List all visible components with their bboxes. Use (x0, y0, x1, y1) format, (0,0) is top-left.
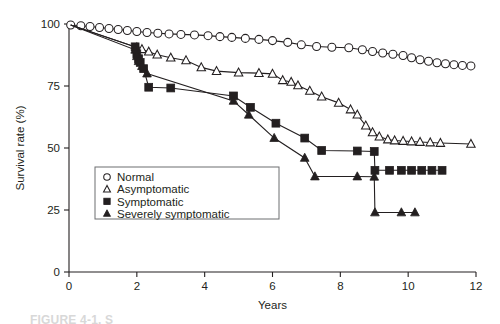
survival-chart: 0246810120255075100 NormalAsymptomaticSy… (0, 0, 500, 324)
open-circle-marker (255, 35, 263, 43)
open-circle-marker (450, 61, 458, 69)
open-circle-marker (123, 26, 131, 34)
y-tick-label: 0 (54, 266, 60, 278)
open-circle-marker (190, 31, 198, 39)
open-circle-marker (105, 24, 113, 32)
filled-triangle-marker (353, 172, 362, 180)
x-tick-label: 2 (134, 280, 140, 292)
y-tick-label: 100 (41, 18, 60, 30)
open-circle-marker (204, 32, 212, 40)
filled-square-marker (318, 147, 326, 155)
chart-legend: NormalAsymptomaticSymptomaticSeverely sy… (95, 167, 279, 220)
filled-triangle-marker (371, 208, 380, 216)
x-tick-label: 10 (402, 280, 415, 292)
filled-square-marker (397, 166, 405, 174)
open-circle-marker (458, 61, 466, 69)
open-circle-marker (216, 33, 224, 41)
open-circle-marker (284, 38, 292, 46)
open-circle-marker (313, 43, 321, 51)
open-circle-marker (441, 60, 449, 68)
filled-triangle-marker (411, 208, 420, 216)
open-circle-marker (241, 34, 249, 42)
open-circle-marker (328, 43, 336, 51)
filled-square-marker (428, 166, 436, 174)
open-circle-marker (177, 30, 185, 38)
legend-label-asymptomatic: Asymptomatic (117, 183, 189, 195)
filled-square-marker (247, 103, 255, 111)
series-normal (67, 21, 475, 70)
open-circle-marker (133, 27, 141, 35)
open-circle-marker (228, 33, 236, 41)
filled-triangle-marker (397, 208, 406, 216)
open-triangle-marker (346, 105, 354, 113)
y-tick-label: 75 (47, 80, 60, 92)
open-triangle-marker (255, 69, 263, 77)
x-tick-label: 6 (269, 280, 275, 292)
filled-square-marker (386, 166, 394, 174)
open-triangle-marker (278, 76, 286, 84)
filled-triangle-marker (300, 153, 309, 161)
open-circle-marker (408, 54, 416, 62)
open-circle-marker (399, 51, 407, 59)
open-triangle-marker (197, 63, 205, 71)
figure-caption: FIGURE 4-1. S (30, 313, 113, 324)
open-triangle-marker (306, 86, 314, 94)
open-circle-marker (389, 50, 397, 58)
open-circle-marker (104, 174, 111, 181)
filled-square-marker (408, 166, 416, 174)
y-tick-label: 25 (47, 204, 60, 216)
filled-triangle-marker (311, 172, 320, 180)
filled-square-marker (272, 119, 280, 127)
filled-square-marker (104, 198, 110, 204)
x-tick-label: 4 (201, 280, 208, 292)
open-circle-marker (416, 56, 424, 64)
x-tick-label: 8 (337, 280, 343, 292)
open-circle-marker (467, 62, 475, 70)
legend-label-symptomatic: Symptomatic (117, 196, 184, 208)
legend-label-normal: Normal (117, 171, 154, 183)
figure-container: 0246810120255075100 NormalAsymptomaticSy… (0, 0, 500, 324)
open-circle-marker (67, 21, 75, 29)
open-circle-marker (358, 46, 366, 54)
series-symptomatic (71, 25, 446, 174)
filled-square-marker (301, 134, 309, 142)
x-tick-label: 12 (470, 280, 483, 292)
x-axis-title: Years (258, 299, 287, 311)
filled-square-marker (353, 147, 361, 155)
x-tick-label: 0 (66, 280, 72, 292)
filled-square-marker (438, 166, 446, 174)
open-circle-marker (269, 37, 277, 45)
filled-square-marker (370, 148, 378, 156)
open-circle-marker (143, 28, 151, 36)
filled-square-marker (145, 83, 153, 91)
y-axis-title: Survival rate (%) (14, 105, 26, 190)
open-circle-marker (433, 59, 441, 67)
open-circle-marker (154, 29, 162, 37)
open-circle-marker (379, 49, 387, 57)
y-tick-label: 50 (47, 142, 60, 154)
filled-square-marker (167, 84, 175, 92)
open-circle-marker (425, 57, 433, 65)
open-circle-marker (165, 30, 173, 38)
filled-square-marker (418, 166, 426, 174)
open-circle-marker (369, 48, 377, 56)
open-circle-marker (345, 44, 353, 52)
open-triangle-marker (317, 92, 325, 100)
open-circle-marker (114, 25, 122, 33)
open-circle-marker (86, 22, 94, 30)
legend-label-severely-symptomatic: Severely symptomatic (117, 208, 230, 220)
open-circle-marker (96, 23, 104, 31)
open-circle-marker (297, 41, 305, 49)
